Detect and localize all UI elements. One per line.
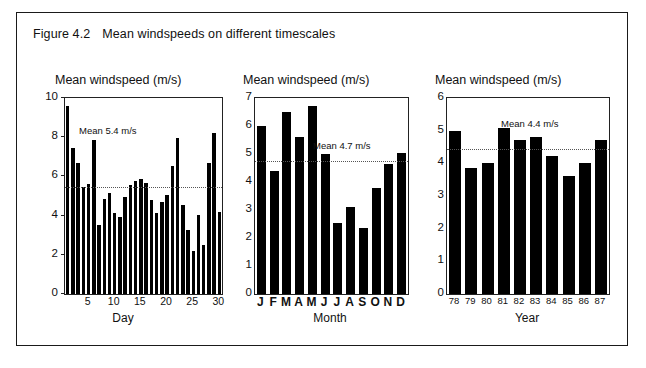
bar: [108, 193, 111, 294]
y-tick-label: 0: [438, 287, 444, 299]
bar-slot: [560, 98, 576, 294]
bar: [160, 202, 163, 294]
bar: [270, 171, 279, 294]
chart-panel-monthly: Mean windspeed (m/s) 01234567 Mean 4.7 m…: [229, 73, 425, 325]
bar: [181, 205, 184, 294]
x-tick-label: 15: [134, 296, 146, 307]
chart-panel-yearly: Mean windspeed (m/s) 0123456 Mean 4.4 m/…: [421, 73, 621, 325]
x-axis-ticks-daily: 51015202530: [64, 296, 221, 310]
y-tick-label: 3: [246, 203, 252, 215]
bar: [595, 140, 607, 294]
x-tick-label: M: [306, 296, 316, 308]
bar-slot: [593, 98, 609, 294]
y-tick-label: 0: [52, 287, 58, 299]
bar: [87, 184, 90, 294]
y-axis-daily: 0246810: [35, 97, 61, 293]
bar: [295, 137, 304, 294]
bar: [97, 225, 100, 294]
bar-slot: [332, 98, 345, 294]
x-axis-title-daily: Day: [112, 311, 133, 325]
figure-caption: Figure 4.2Mean windspeeds on different t…: [33, 27, 335, 41]
bar: [321, 154, 330, 294]
bar-slot: [357, 98, 370, 294]
bar: [372, 188, 381, 294]
y-axis-monthly: 01234567: [229, 97, 255, 293]
bar: [129, 185, 132, 294]
figure-title-text: Mean windspeeds on different timescales: [102, 27, 335, 41]
bar-slot: [447, 98, 463, 294]
y-tick-label: 5: [438, 124, 444, 136]
x-tick-label: N: [384, 296, 393, 308]
bar: [155, 213, 158, 294]
x-tick-label: O: [370, 296, 379, 308]
x-tick-label: J: [321, 296, 328, 308]
bar: [192, 251, 195, 294]
bar-series-monthly: [255, 98, 408, 294]
bar: [118, 217, 121, 294]
plot-area-monthly: [254, 97, 409, 295]
bar: [82, 187, 85, 294]
y-tick-label: 1: [438, 255, 444, 267]
bar: [66, 106, 69, 294]
x-tick-label: S: [358, 296, 366, 308]
x-tick-label: J: [257, 296, 264, 308]
x-tick-label: 87: [595, 296, 606, 306]
x-tick-label: J: [334, 296, 341, 308]
bar: [197, 215, 200, 294]
bar: [123, 197, 126, 294]
bar: [139, 179, 142, 294]
x-tick-label: M: [281, 296, 291, 308]
x-tick-label: 25: [186, 296, 198, 307]
y-tick-label: 8: [52, 130, 58, 142]
bar-slot: [463, 98, 479, 294]
bar: [113, 213, 116, 294]
x-tick-label: 10: [108, 296, 120, 307]
x-tick-label: D: [396, 296, 405, 308]
bar-slot: [306, 98, 319, 294]
y-tick-label: 4: [246, 175, 252, 187]
bar: [449, 131, 461, 294]
bar: [207, 163, 210, 294]
bar: [212, 133, 215, 294]
bar-slot: [293, 98, 306, 294]
y-tick-label: 6: [52, 170, 58, 182]
bar-slot: [395, 98, 408, 294]
bar: [202, 245, 205, 294]
y-tick-label: 3: [438, 189, 444, 201]
y-tick-label: 5: [246, 147, 252, 159]
bar: [397, 153, 406, 294]
y-tick-label: 2: [246, 231, 252, 243]
x-tick-label: F: [269, 296, 276, 308]
x-tick-label: 86: [578, 296, 589, 306]
bar-slot: [577, 98, 593, 294]
bar: [359, 228, 368, 294]
y-axis-yearly: 0123456: [421, 97, 447, 293]
bar-slot: [281, 98, 294, 294]
x-tick-label: A: [345, 296, 354, 308]
bar: [498, 128, 510, 294]
bar: [563, 176, 575, 294]
bar: [546, 156, 558, 294]
bar-slot: [217, 98, 222, 294]
bar: [144, 183, 147, 294]
bar-slot: [255, 98, 268, 294]
bar: [103, 199, 106, 294]
chart-panel-daily: Mean windspeed (m/s) 0246810 Mean 5.4 m/…: [35, 73, 235, 325]
y-tick-label: 7: [246, 91, 252, 103]
bar-slot: [383, 98, 396, 294]
x-tick-label: 79: [465, 296, 476, 306]
bar: [92, 140, 95, 294]
x-axis-ticks-monthly: JFMAMJJASOND: [254, 296, 407, 310]
y-tick-label: 6: [246, 119, 252, 131]
bar: [346, 207, 355, 294]
bar: [308, 106, 317, 294]
bar: [282, 112, 291, 294]
bar: [514, 140, 526, 294]
chart-title-daily: Mean windspeed (m/s): [55, 73, 181, 87]
x-tick-label: 5: [85, 296, 91, 307]
mean-annotation-daily: Mean 5.4 m/s: [79, 125, 137, 136]
bar: [579, 163, 591, 294]
mean-annotation-yearly: Mean 4.4 m/s: [501, 118, 559, 129]
bar: [134, 181, 137, 294]
chart-title-monthly: Mean windspeed (m/s): [243, 73, 369, 87]
